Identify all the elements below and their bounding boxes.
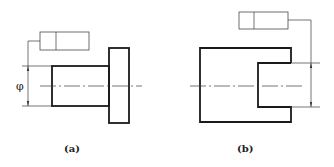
diameter-symbol: φ	[16, 80, 24, 93]
flange-a	[109, 48, 129, 123]
tolerance-frame-box	[40, 32, 89, 50]
arrow-top-b	[310, 63, 312, 68]
arrow-top-a	[27, 66, 29, 71]
figure-b: (b)	[190, 12, 320, 154]
figure-label-b: (b)	[237, 143, 253, 154]
leader-line-a	[28, 41, 40, 66]
arrow-bottom-b	[310, 102, 312, 107]
tolerance-frame-b	[239, 12, 288, 29]
tolerance-frame-a	[40, 32, 89, 50]
figure-label-a: (a)	[64, 143, 80, 154]
figure-a: φ (a)	[16, 32, 142, 154]
slotted-block-b	[200, 48, 291, 122]
arrow-bottom-a	[27, 101, 29, 106]
tolerance-frame-box	[239, 12, 288, 29]
technical-drawing: φ (a) (b)	[0, 0, 334, 167]
